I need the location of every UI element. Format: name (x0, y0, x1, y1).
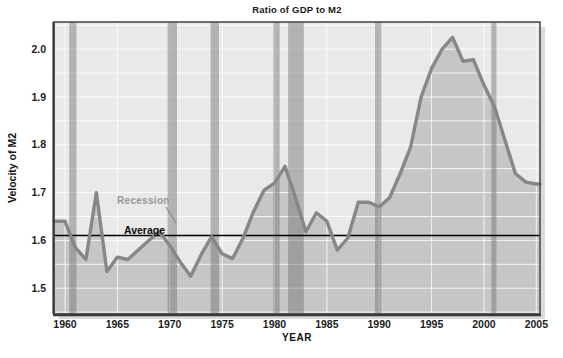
x-tick-label: 1975 (210, 318, 234, 330)
recession-band (491, 22, 496, 314)
recession-band (211, 22, 219, 314)
y-tick-label: 1.5 (31, 282, 46, 294)
y-tick-label: 1.8 (31, 138, 46, 150)
recession-band (69, 22, 76, 314)
x-axis-title: YEAR (247, 332, 347, 343)
average-annotation: Average (124, 224, 165, 236)
x-tick-label: 1960 (53, 318, 77, 330)
y-tick-label: 1.9 (31, 91, 46, 103)
recession-band (168, 22, 177, 314)
x-tick-label: 1980 (263, 318, 287, 330)
y-tick-label: 1.7 (31, 186, 46, 198)
x-tick-label: 1965 (106, 318, 130, 330)
gdp-m2-velocity-figure: Ratio of GDP to M2 Velocity of M2 2.01.9… (0, 0, 563, 358)
y-tick-label: 1.6 (31, 234, 46, 246)
recession-band (273, 22, 279, 314)
x-tick-label: 1970 (158, 318, 182, 330)
recession-band (288, 22, 304, 314)
x-tick-label: 1990 (368, 318, 392, 330)
y-tick-label: 2.0 (31, 43, 46, 55)
x-tick-label: 1985 (315, 318, 339, 330)
chart-canvas: 2.01.91.81.71.61.51960196519701975198019… (0, 0, 563, 358)
x-tick-label: 2000 (472, 318, 496, 330)
x-tick-label: 2005 (525, 318, 549, 330)
recession-annotation: Recession (117, 195, 170, 206)
recession-band (375, 22, 381, 314)
x-tick-label: 1995 (420, 318, 444, 330)
